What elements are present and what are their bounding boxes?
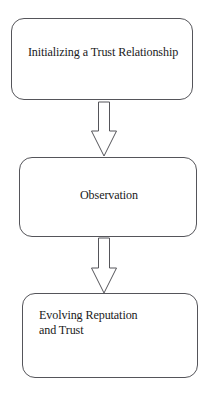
down-block-arrow-shape <box>90 237 118 294</box>
flow-node-observation[interactable]: Observation <box>19 157 197 237</box>
down-block-arrow-icon <box>90 101 118 157</box>
flow-node-evolving-reputation-and-trust[interactable]: Evolving Reputation and Trust <box>22 293 198 378</box>
flow-node-label: Evolving Reputation and Trust <box>39 308 189 338</box>
flow-node-label: Observation <box>20 188 198 203</box>
flowchart-canvas: Initializing a Trust Relationship Observ… <box>0 0 208 394</box>
down-block-arrow-shape <box>90 101 118 157</box>
flow-node-initializing-trust-relationship[interactable]: Initializing a Trust Relationship <box>11 18 193 100</box>
down-block-arrow-icon <box>90 237 118 294</box>
flow-node-label: Initializing a Trust Relationship <box>12 45 194 60</box>
